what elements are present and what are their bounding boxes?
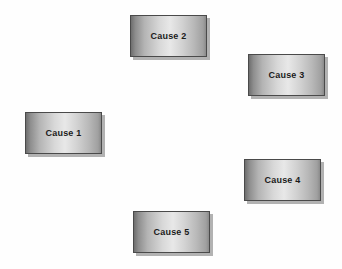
cause-node-label: Cause 1 [46,129,82,138]
cause-node-1[interactable]: Cause 1 [25,112,102,154]
cause-node-label: Cause 4 [265,176,301,185]
cause-node-2[interactable]: Cause 2 [130,15,207,57]
cause-node-label: Cause 5 [154,228,190,237]
cause-node-4[interactable]: Cause 4 [244,159,321,201]
cause-node-label: Cause 3 [269,71,305,80]
cause-node-label: Cause 2 [151,32,187,41]
cause-node-3[interactable]: Cause 3 [248,54,325,96]
cause-node-5[interactable]: Cause 5 [133,211,210,253]
diagram-canvas: Cause 1 Cause 2 Cause 3 Cause 4 Cause 5 [0,0,342,269]
